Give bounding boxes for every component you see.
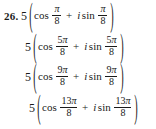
sine-label: sin: [98, 102, 111, 113]
fraction-numerator: 13π: [60, 96, 77, 107]
pi-symbol: π: [100, 3, 105, 14]
cosine-label: cos: [38, 71, 53, 82]
imaginary-unit: i: [77, 10, 80, 21]
pi-symbol: π: [111, 34, 116, 45]
choice-c-coefficient: 5: [25, 71, 31, 83]
imaginary-unit: i: [84, 71, 87, 82]
sine-label: sin: [89, 71, 102, 82]
fraction-numerator: 9π: [105, 65, 117, 76]
numerator-coefficient: 13: [115, 95, 125, 106]
fraction-numerator: π: [53, 4, 60, 15]
choice-c-cos-angle: 9π 8: [56, 65, 68, 88]
choice-c-row[interactable]: 5 ( cos 9π 8 + i sin 9π 8 ): [0, 65, 156, 88]
choice-d-row[interactable]: 5 ( cos 13π 8 + i sin 13π 8 ): [0, 96, 156, 119]
imaginary-unit: i: [84, 41, 87, 52]
fraction-denominator: 8: [108, 77, 115, 88]
numerator-coefficient: 13: [61, 95, 71, 106]
choice-a-coefficient: 5: [21, 10, 27, 22]
cosine-label: cos: [38, 41, 53, 52]
choice-b-expression: 5 ( cos 5π 8 + i sin 5π 8 ): [25, 35, 126, 58]
fraction-denominator: 8: [65, 108, 72, 119]
choice-c-sin-angle: 9π 8: [105, 65, 117, 88]
choice-b-coefficient: 5: [25, 41, 31, 53]
pi-symbol: π: [54, 3, 59, 14]
plus-sign: +: [82, 102, 88, 113]
choice-d-sin-angle: 13π 8: [114, 96, 131, 119]
cosine-label: cos: [42, 102, 57, 113]
fraction-numerator: 9π: [56, 65, 68, 76]
fraction-denominator: 8: [119, 108, 126, 119]
fraction-denominator: 8: [59, 47, 66, 58]
pi-symbol: π: [71, 95, 76, 106]
choice-d-coefficient: 5: [29, 102, 35, 114]
choice-a-sin-angle: π 8: [98, 4, 107, 27]
fraction-denominator: 8: [108, 47, 115, 58]
fraction-numerator: 5π: [56, 35, 68, 46]
choice-a-row[interactable]: 5 ( cos π 8 + i sin π 8 ): [0, 4, 156, 27]
fraction-denominator: 8: [53, 16, 60, 27]
plus-sign: +: [66, 10, 72, 21]
fraction-denominator: 8: [99, 16, 106, 27]
plus-sign: +: [73, 41, 79, 52]
fraction-numerator: 13π: [114, 96, 131, 107]
sine-label: sin: [89, 41, 102, 52]
choice-a-expression: 5 ( cos π 8 + i sin π 8 ): [21, 4, 116, 27]
pi-symbol: π: [62, 34, 67, 45]
pi-symbol: π: [62, 64, 67, 75]
choice-b-row[interactable]: 5 ( cos 5π 8 + i sin 5π 8 ): [0, 35, 156, 58]
choice-b-sin-angle: 5π 8: [105, 35, 117, 58]
choice-d-expression: 5 ( cos 13π 8 + i sin 13π 8 ): [29, 96, 140, 119]
fraction-denominator: 8: [59, 77, 66, 88]
cosine-label: cos: [34, 10, 49, 21]
sine-label: sin: [82, 10, 95, 21]
choice-b-cos-angle: 5π 8: [56, 35, 68, 58]
pi-symbol: π: [125, 95, 130, 106]
imaginary-unit: i: [93, 102, 96, 113]
math-problem-block: 26. 5 ( cos π 8 + i sin π 8 ): [0, 0, 156, 129]
fraction-numerator: π: [99, 4, 106, 15]
pi-symbol: π: [111, 64, 116, 75]
choice-d-cos-angle: 13π 8: [60, 96, 77, 119]
choice-a-cos-angle: π 8: [52, 4, 61, 27]
choice-c-expression: 5 ( cos 9π 8 + i sin 9π 8 ): [25, 65, 126, 88]
plus-sign: +: [73, 71, 79, 82]
fraction-numerator: 5π: [105, 35, 117, 46]
